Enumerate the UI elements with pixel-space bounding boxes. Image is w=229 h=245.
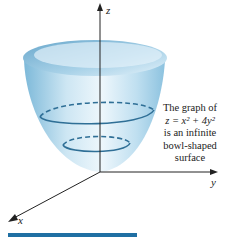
divider-bar bbox=[8, 233, 137, 237]
x-axis-arrow-icon bbox=[8, 214, 18, 222]
caption-line-5: surface bbox=[150, 152, 229, 165]
z-axis-arrow-icon bbox=[97, 3, 103, 11]
caption: The graph of z = x² + 4y² is an infinite… bbox=[150, 102, 229, 165]
x-axis bbox=[12, 172, 100, 219]
caption-line-4: bowl-shaped bbox=[150, 140, 229, 153]
y-axis-label: y bbox=[210, 176, 216, 188]
caption-line-3: is an infinite bbox=[150, 127, 229, 140]
caption-equation: z = x² + 4y² bbox=[150, 115, 229, 128]
y-axis-arrow-icon bbox=[210, 169, 218, 175]
caption-line-1: The graph of bbox=[150, 102, 229, 115]
x-axis-label: x bbox=[17, 214, 23, 226]
z-axis-label: z bbox=[105, 4, 111, 16]
